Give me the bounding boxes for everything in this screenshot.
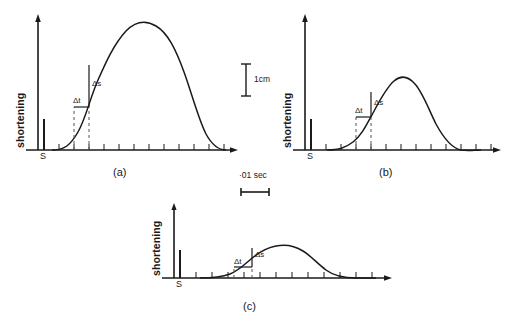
panel-b: shortening xyxy=(263,0,513,190)
stimulus-label-b: S xyxy=(307,151,313,161)
stimulus-label-c: S xyxy=(176,279,182,289)
time-calibration-label: ·01 sec xyxy=(239,170,267,180)
panel-a: shortening xyxy=(0,0,250,190)
delta-t-label-b: Δt xyxy=(355,106,363,115)
time-calibration-group: ·01 sec xyxy=(236,170,306,200)
y-axis-label-c: shortening xyxy=(150,221,162,276)
x-axis-arrow-b xyxy=(493,147,501,153)
delta-s-label-b: Δs xyxy=(374,98,383,107)
y-axis-label-b: shortening xyxy=(281,93,293,148)
panel-caption-a: (a) xyxy=(113,166,126,178)
y-axis-arrow-a xyxy=(35,14,41,22)
y-axis-label-a: shortening xyxy=(14,93,26,148)
stimulus-label-a: S xyxy=(40,151,46,161)
delta-s-label-c: Δs xyxy=(255,250,264,259)
x-axis-ticks-a xyxy=(44,144,224,150)
y-axis-arrow-c xyxy=(171,203,176,210)
figure-muscle-shortening-curves: shortening xyxy=(0,0,513,332)
plot-b xyxy=(263,0,513,190)
panel-caption-b: (b) xyxy=(379,166,392,178)
y-axis-arrow-b xyxy=(302,14,308,22)
delta-t-label-a: Δt xyxy=(73,96,81,105)
shortening-curve-c xyxy=(200,245,376,278)
panel-caption-c: (c) xyxy=(243,300,256,312)
panel-c: shortening xyxy=(130,200,420,332)
plot-a xyxy=(0,0,250,190)
x-axis-arrow-c xyxy=(384,275,392,281)
shortening-curve-a xyxy=(52,22,226,150)
shortening-curve-b xyxy=(327,77,481,150)
x-axis-arrow-a xyxy=(230,147,238,153)
plot-c xyxy=(130,200,420,332)
delta-s-label-a: Δs xyxy=(92,79,101,88)
delta-t-label-c: Δt xyxy=(234,257,242,266)
